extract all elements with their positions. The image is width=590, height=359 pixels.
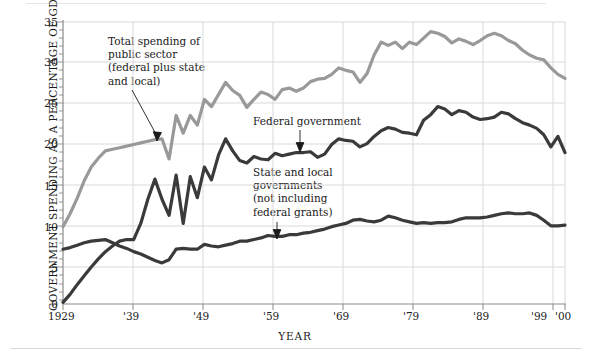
- gridlines: [63, 22, 565, 304]
- federal-annotation-arrow-head: [296, 143, 304, 152]
- series-lines: [63, 32, 565, 303]
- chart-figure: GOVERNMENT SPENDING AS A PERCENTAGE OF G…: [0, 0, 590, 359]
- annotation-arrows: [132, 90, 304, 239]
- plot-svg: [0, 0, 590, 359]
- total-annotation-arrow-line: [132, 90, 157, 136]
- series-line-total-spending: [63, 32, 565, 227]
- series-line-state-local-governments: [63, 213, 565, 263]
- series-line-federal-government: [63, 107, 565, 303]
